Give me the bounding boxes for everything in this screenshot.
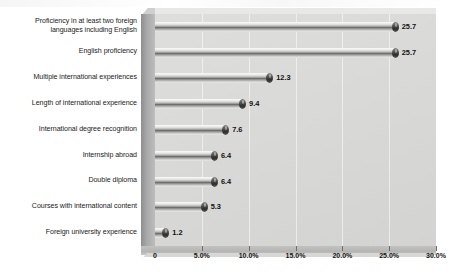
- plot-left-wall: [141, 14, 155, 246]
- bar-body: [155, 202, 205, 212]
- bar: [155, 151, 215, 161]
- x-axis-tick-label: 30.0%: [426, 252, 446, 259]
- category-label-line: Multiple international experiences: [0, 73, 137, 81]
- category-label-2: Multiple international experiences: [0, 73, 137, 81]
- x-axis-tick: [296, 246, 297, 251]
- bar-value-label: 25.7: [402, 22, 416, 32]
- category-label-1: English proficiency: [0, 47, 137, 55]
- x-axis-tick-label: 5.0%: [194, 252, 210, 259]
- bar-body: [155, 73, 270, 83]
- bar-body: [155, 48, 396, 58]
- bar-value-label: 6.4: [221, 177, 231, 187]
- scan-artifact: [0, 0, 451, 7]
- bar: [155, 125, 226, 135]
- category-label-3: Length of international experience: [0, 99, 137, 107]
- bar: [155, 48, 396, 58]
- x-axis-tick-label: 25.0%: [379, 252, 399, 259]
- bar-body: [155, 22, 396, 32]
- category-label-7: Courses with international content: [0, 202, 137, 210]
- bar: [155, 202, 205, 212]
- bar: [155, 73, 270, 83]
- gridline: [436, 14, 437, 246]
- bar: [155, 177, 215, 187]
- x-axis-tick: [389, 246, 390, 251]
- bar-value-label: 6.4: [221, 151, 231, 161]
- x-axis-tick: [249, 246, 250, 251]
- x-axis-tick: [202, 246, 203, 251]
- category-label-0: Proficiency in at least two foreignlangu…: [0, 17, 137, 34]
- category-label-6: Double diploma: [0, 176, 137, 184]
- category-label-line: English proficiency: [0, 47, 137, 55]
- category-label-line: Length of international experience: [0, 99, 137, 107]
- bar-value-label: 12.3: [276, 73, 290, 83]
- category-label-line: Courses with international content: [0, 202, 137, 210]
- category-label-line: Internship abroad: [0, 151, 137, 159]
- bar-body: [155, 125, 226, 135]
- x-axis-tick-label: 0: [153, 252, 157, 259]
- category-label-4: International degree recognition: [0, 125, 137, 133]
- bar-value-label: 9.4: [249, 99, 259, 109]
- bar-body: [155, 151, 215, 161]
- bar-cap-highlight: [214, 152, 216, 156]
- bar-body: [155, 99, 243, 109]
- bar: [155, 228, 166, 238]
- category-label-line: Foreign university experience: [0, 228, 137, 236]
- bar-value-label: 5.3: [211, 202, 221, 212]
- x-axis-tick: [342, 246, 343, 251]
- bar-chart: Proficiency in at least two foreignlangu…: [0, 0, 451, 274]
- bar-cap-highlight: [214, 178, 216, 182]
- bar: [155, 22, 396, 32]
- category-label-line: Proficiency in at least two foreign: [0, 17, 137, 25]
- bar-value-label: 25.7: [402, 48, 416, 58]
- bar-cap-highlight: [395, 49, 397, 53]
- category-label-line: languages including English: [0, 26, 137, 34]
- category-label-5: Internship abroad: [0, 151, 137, 159]
- x-axis-tick-label: 10.0%: [239, 252, 259, 259]
- category-label-line: Double diploma: [0, 176, 137, 184]
- category-label-8: Foreign university experience: [0, 228, 137, 236]
- category-label-line: International degree recognition: [0, 125, 137, 133]
- x-axis-tick: [436, 246, 437, 251]
- bar-value-label: 7.6: [232, 125, 242, 135]
- bar-body: [155, 177, 215, 187]
- x-axis-tick-label: 20.0%: [332, 252, 352, 259]
- bar-cap-highlight: [204, 203, 206, 207]
- bar: [155, 99, 243, 109]
- x-axis-tick-label: 15.0%: [286, 252, 306, 259]
- category-axis-labels: Proficiency in at least two foreignlangu…: [0, 14, 137, 246]
- bar-cap-highlight: [395, 23, 397, 27]
- bar-value-label: 1.2: [172, 228, 182, 238]
